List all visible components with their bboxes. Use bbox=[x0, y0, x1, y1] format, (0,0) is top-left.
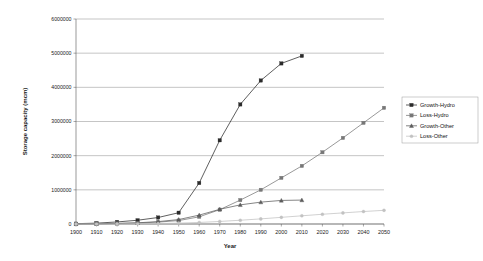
x-axis-tick-label: 1910 bbox=[91, 229, 103, 235]
x-axis-tick-label: 1950 bbox=[173, 229, 185, 235]
data-point-loss-other bbox=[177, 222, 180, 225]
data-point-loss-other bbox=[321, 213, 324, 216]
y-axis-tick-label: 2000000 bbox=[51, 153, 71, 159]
legend-marker-loss-other bbox=[410, 135, 413, 138]
legend-label-growth-hydro: Growth-Hydro bbox=[420, 102, 455, 108]
x-axis-tick-label: 2020 bbox=[316, 229, 328, 235]
x-axis-tick-label: 2040 bbox=[357, 229, 369, 235]
data-point-loss-other bbox=[74, 222, 77, 225]
x-axis-title: Year bbox=[224, 243, 237, 249]
x-axis-tick-label: 1980 bbox=[234, 229, 246, 235]
data-point-loss-other bbox=[95, 222, 98, 225]
data-point-loss-hydro bbox=[280, 176, 283, 179]
data-point-loss-other bbox=[218, 220, 221, 223]
data-point-loss-hydro bbox=[382, 106, 385, 109]
data-point-loss-other bbox=[341, 211, 344, 214]
data-point-growth-hydro bbox=[177, 211, 180, 214]
legend-label-loss-hydro: Loss-Hydro bbox=[420, 112, 449, 118]
x-axis-tick-label: 2000 bbox=[275, 229, 287, 235]
data-point-loss-other bbox=[382, 209, 385, 212]
legend-label-loss-other: Loss-Other bbox=[420, 133, 448, 139]
y-axis-tick-label: 0 bbox=[69, 221, 72, 227]
y-axis-tick-label: 6000000 bbox=[51, 16, 71, 22]
data-point-growth-hydro bbox=[280, 62, 283, 65]
y-axis-title: Storage capacity (mcm) bbox=[22, 88, 28, 156]
y-axis-tick-label: 5000000 bbox=[51, 50, 71, 56]
data-point-growth-hydro bbox=[239, 103, 242, 106]
x-axis-tick-label: 2050 bbox=[378, 229, 390, 235]
x-axis-tick-label: 2010 bbox=[296, 229, 308, 235]
x-axis-tick-label: 1930 bbox=[132, 229, 144, 235]
y-axis-tick-label: 4000000 bbox=[51, 84, 71, 90]
data-point-loss-hydro bbox=[300, 164, 303, 167]
legend-marker-growth-hydro bbox=[410, 103, 413, 106]
data-point-loss-other bbox=[198, 221, 201, 224]
data-point-growth-hydro bbox=[300, 54, 303, 57]
x-axis-tick-label: 1960 bbox=[193, 229, 205, 235]
data-point-loss-hydro bbox=[259, 188, 262, 191]
data-point-growth-hydro bbox=[156, 216, 159, 219]
data-point-loss-hydro bbox=[341, 136, 344, 139]
data-point-growth-hydro bbox=[198, 181, 201, 184]
x-axis-tick-label: 1970 bbox=[214, 229, 226, 235]
x-axis-tick-label: 2030 bbox=[337, 229, 349, 235]
series-line-growth-other bbox=[76, 200, 302, 224]
data-point-growth-hydro bbox=[218, 139, 221, 142]
legend-marker-loss-hydro bbox=[410, 114, 413, 117]
series-line-loss-other bbox=[76, 210, 384, 224]
data-point-loss-other bbox=[259, 217, 262, 220]
data-point-loss-other bbox=[136, 222, 139, 225]
data-point-loss-other bbox=[157, 222, 160, 225]
data-point-loss-other bbox=[300, 214, 303, 217]
series-line-loss-hydro bbox=[76, 108, 384, 224]
data-point-loss-hydro bbox=[239, 198, 242, 201]
x-axis-tick-label: 1900 bbox=[70, 229, 82, 235]
line-chart-plot: 0100000020000003000000400000050000006000… bbox=[0, 0, 483, 261]
y-axis-tick-label: 1000000 bbox=[51, 187, 71, 193]
x-axis-tick-label: 1940 bbox=[152, 229, 164, 235]
chart-container: 0100000020000003000000400000050000006000… bbox=[0, 0, 483, 261]
data-point-loss-other bbox=[239, 219, 242, 222]
data-point-growth-hydro bbox=[259, 79, 262, 82]
legend-label-growth-other: Growth-Other bbox=[420, 123, 454, 129]
data-point-loss-hydro bbox=[362, 121, 365, 124]
data-point-loss-other bbox=[116, 222, 119, 225]
x-axis-tick-label: 1990 bbox=[255, 229, 267, 235]
x-axis-tick-label: 1920 bbox=[111, 229, 123, 235]
y-axis-tick-label: 3000000 bbox=[51, 118, 71, 124]
data-point-loss-hydro bbox=[321, 151, 324, 154]
data-point-loss-other bbox=[362, 210, 365, 213]
series-line-growth-hydro bbox=[76, 56, 302, 224]
data-point-loss-other bbox=[280, 216, 283, 219]
